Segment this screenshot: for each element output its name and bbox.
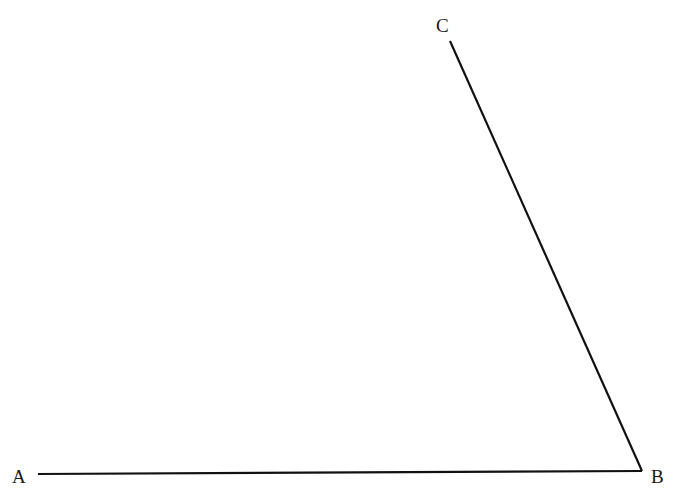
segment-ab [38,471,642,474]
point-label-b: B [651,467,664,486]
point-label-a: A [12,467,26,486]
diagram-canvas: A B C [0,0,680,503]
point-label-c: C [436,16,449,35]
segment-bc [450,41,642,471]
angle-figure [0,0,680,503]
